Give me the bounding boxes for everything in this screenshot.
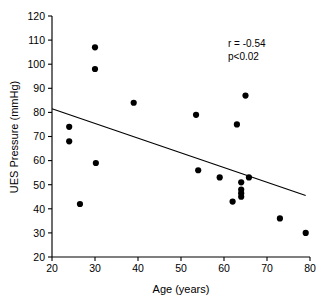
data-point bbox=[246, 174, 252, 180]
y-tick-label: 20 bbox=[33, 251, 45, 263]
data-point bbox=[92, 44, 98, 50]
correlation-annotation: r = -0.54 bbox=[228, 38, 266, 49]
regression-line bbox=[52, 109, 306, 196]
y-axis-ticks: 2030405060708090100110120 bbox=[27, 10, 52, 263]
data-point bbox=[230, 198, 236, 204]
x-tick-label: 20 bbox=[46, 262, 58, 274]
y-tick-label: 30 bbox=[33, 227, 45, 239]
x-tick-label: 60 bbox=[218, 262, 230, 274]
data-point bbox=[303, 230, 309, 236]
x-axis-title: Age (years) bbox=[153, 283, 210, 295]
scatter-plot-figure: 2030405060708090100110120 20304050607080… bbox=[0, 0, 326, 302]
y-tick-label: 90 bbox=[33, 82, 45, 94]
y-tick-label: 100 bbox=[27, 58, 45, 70]
data-point bbox=[195, 167, 201, 173]
x-tick-label: 80 bbox=[304, 262, 316, 274]
y-tick-label: 50 bbox=[33, 179, 45, 191]
y-tick-label: 120 bbox=[27, 10, 45, 22]
y-tick-label: 40 bbox=[33, 203, 45, 215]
y-axis-title: UES Pressure (mmHg) bbox=[8, 81, 20, 193]
x-tick-label: 50 bbox=[175, 262, 187, 274]
x-tick-label: 70 bbox=[261, 262, 273, 274]
y-tick-label: 110 bbox=[28, 34, 45, 46]
data-point bbox=[131, 100, 137, 106]
y-tick-label: 60 bbox=[33, 154, 45, 166]
data-point bbox=[66, 138, 72, 144]
pvalue-annotation: p<0.02 bbox=[228, 51, 259, 62]
data-point bbox=[93, 160, 99, 166]
data-point bbox=[92, 66, 98, 72]
x-tick-label: 30 bbox=[89, 262, 101, 274]
x-tick-label: 40 bbox=[132, 262, 144, 274]
data-point bbox=[66, 124, 72, 130]
data-point bbox=[193, 112, 199, 118]
data-point bbox=[238, 179, 244, 185]
data-point bbox=[217, 174, 223, 180]
x-axis-ticks: 20304050607080 bbox=[46, 257, 316, 274]
data-point bbox=[234, 121, 240, 127]
data-point bbox=[77, 201, 83, 207]
data-points-group bbox=[66, 44, 309, 236]
data-point bbox=[238, 194, 244, 200]
y-tick-label: 80 bbox=[33, 106, 45, 118]
chart-canvas: 2030405060708090100110120 20304050607080… bbox=[0, 0, 326, 302]
axes-group bbox=[52, 16, 310, 257]
data-point bbox=[277, 215, 283, 221]
data-point bbox=[242, 92, 248, 98]
y-tick-label: 70 bbox=[33, 130, 45, 142]
